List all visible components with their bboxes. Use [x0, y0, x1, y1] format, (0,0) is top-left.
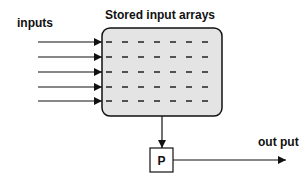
diagram-canvas: inputs Stored input arrays out put P [0, 0, 308, 181]
inputs-label: inputs [17, 16, 53, 30]
output-label: out put [258, 135, 299, 149]
input-arrows [38, 42, 102, 101]
processor-label: P [157, 154, 165, 168]
store-title: Stored input arrays [105, 8, 215, 22]
